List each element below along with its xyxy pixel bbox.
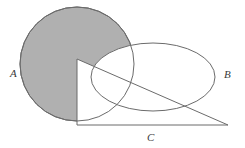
region-label-b: B [224, 69, 231, 80]
region-label-a: A [10, 68, 17, 79]
venn-diagram-figure: A B C [0, 0, 245, 148]
venn-diagram-canvas [0, 0, 245, 148]
region-label-c: C [147, 132, 154, 143]
